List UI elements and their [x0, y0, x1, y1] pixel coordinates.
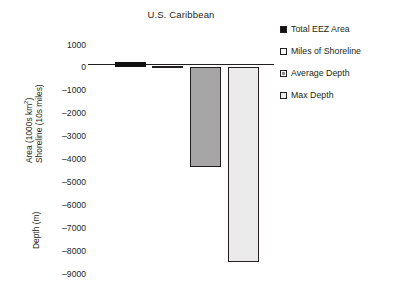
- y-axis-tick-1000: 1000: [46, 40, 86, 50]
- bar-miles-of-shoreline: [152, 66, 183, 68]
- legend-swatch-icon: [280, 48, 287, 55]
- bar-max-depth: [228, 67, 259, 261]
- y-axis-tick-neg9000: –9000: [46, 269, 86, 279]
- y-axis-tick-neg8000: –8000: [46, 246, 86, 256]
- legend-label: Average Depth: [291, 68, 350, 78]
- y-axis-tick-labels: 10000–1000–2000–3000–4000–5000–6000–7000…: [46, 20, 86, 280]
- legend-item-total-eez-area[interactable]: Total EEZ Area: [280, 18, 404, 40]
- legend-label: Total EEZ Area: [291, 24, 350, 34]
- bar-average-depth: [190, 67, 221, 167]
- y-axis-tick-0: 0: [46, 62, 86, 72]
- bar-total-eez-area: [115, 62, 146, 68]
- y-axis-tick-neg7000: –7000: [46, 223, 86, 233]
- y-axis-title-depth: Depth (m): [31, 212, 41, 249]
- legend-swatch-icon: [280, 70, 287, 77]
- y-axis-tick-neg3000: –3000: [46, 131, 86, 141]
- chart-legend: Total EEZ AreaMiles of ShorelineAverage …: [280, 18, 404, 106]
- legend-swatch-icon: [280, 92, 287, 99]
- y-axis-title-area: Area (1000s km2) Shoreline (10s miles): [24, 84, 44, 163]
- legend-item-max-depth[interactable]: Max Depth: [280, 84, 404, 106]
- legend-label: Miles of Shoreline: [291, 46, 361, 56]
- chart-figure: U.S. Caribbean 10000–1000–2000–3000–4000…: [0, 0, 407, 291]
- y-axis-tick-neg4000: –4000: [46, 154, 86, 164]
- superscript-two: 2: [22, 100, 29, 103]
- y-axis-tick-neg2000: –2000: [46, 108, 86, 118]
- y-axis-title-area-line2: Shoreline (10s miles): [34, 84, 44, 163]
- legend-item-miles-of-shoreline[interactable]: Miles of Shoreline: [280, 40, 404, 62]
- y-axis-tick-neg6000: –6000: [46, 200, 86, 210]
- y-axis-tick-neg1000: –1000: [46, 85, 86, 95]
- page-title: U.S. Caribbean: [88, 9, 274, 20]
- legend-item-average-depth[interactable]: Average Depth: [280, 62, 404, 84]
- legend-label: Max Depth: [291, 90, 334, 100]
- legend-swatch-icon: [280, 26, 287, 33]
- y-axis-tick-neg5000: –5000: [46, 177, 86, 187]
- plot-area: [88, 20, 274, 280]
- y-axis-title-area-line1: Area (1000s km2): [24, 98, 34, 163]
